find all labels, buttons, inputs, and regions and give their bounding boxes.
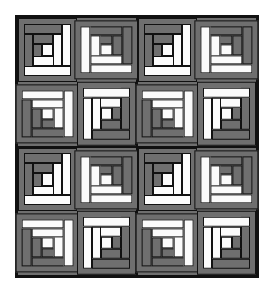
log-7-light-bottom [201, 26, 211, 74]
log-5-dark-top [142, 99, 152, 138]
log-1-dark-top [221, 249, 242, 259]
log-1-dark-top [31, 237, 41, 258]
log-cabin-block [136, 214, 200, 273]
log-5-dark-top [144, 153, 183, 163]
log-8-light-right [182, 153, 191, 195]
center-square [220, 174, 232, 185]
log-7-light-bottom [64, 90, 74, 138]
log-1-dark-top [33, 34, 54, 44]
quadrant-bottom-right [137, 147, 257, 277]
log-cabin-block [77, 211, 136, 275]
log-5-dark-top [243, 26, 253, 65]
log-7-light-bottom [81, 155, 91, 203]
log-7-light-bottom [64, 219, 74, 267]
log-8-light-right [210, 65, 252, 74]
log-1-dark-top [233, 165, 243, 186]
log-cabin-block [136, 84, 200, 143]
center-square [101, 237, 112, 249]
log-7-light-bottom [144, 195, 192, 205]
log-7-light-bottom [184, 90, 194, 138]
log-5-dark-top [212, 259, 251, 269]
quadrant-top-right [137, 17, 257, 147]
quilt-canvas: Log Cabin Quilt Pattern Two-color quilt … [0, 0, 274, 292]
log-4-light-right [90, 185, 122, 194]
log-1-dark-top [153, 34, 174, 44]
center-square [162, 44, 173, 56]
center-square [100, 44, 112, 55]
log-4-light-right [151, 228, 183, 237]
log-cabin-block [16, 214, 80, 273]
log-4-light-right [92, 98, 101, 130]
log-4-light-right [53, 163, 62, 195]
log-4-light-right [53, 34, 62, 66]
log-7-light-bottom [203, 88, 251, 98]
center-square [41, 237, 53, 248]
log-8-light-right [90, 194, 132, 203]
log-cabin-block [138, 148, 197, 212]
center-square [161, 108, 173, 119]
log-7-light-bottom [24, 195, 72, 205]
log-1-dark-top [151, 108, 161, 129]
log-4-light-right [212, 227, 221, 259]
log-4-light-right [173, 34, 182, 66]
log-cabin-block [138, 18, 197, 82]
log-5-dark-top [212, 130, 251, 140]
log-8-light-right [142, 219, 184, 228]
log-cabin-block [77, 82, 136, 146]
log-8-light-right [22, 219, 64, 228]
quilt-outer-border [15, 15, 259, 278]
log-1-dark-top [113, 165, 123, 186]
log-5-dark-top [243, 155, 253, 194]
log-8-light-right [62, 153, 71, 195]
log-cabin-block [18, 148, 77, 212]
log-7-light-bottom [201, 155, 211, 203]
log-7-light-bottom [83, 88, 131, 98]
log-1-dark-top [153, 163, 174, 173]
log-7-light-bottom [144, 66, 192, 76]
log-5-dark-top [24, 24, 63, 34]
log-cabin-block [195, 20, 259, 79]
center-square [100, 174, 112, 185]
log-4-light-right [31, 99, 63, 108]
center-square [42, 44, 53, 56]
log-4-light-right [151, 99, 183, 108]
quadrant-top-left [17, 17, 137, 147]
log-cabin-block [16, 84, 80, 143]
center-square [220, 44, 232, 55]
quadrant-bottom-left [17, 147, 137, 277]
log-5-dark-top [22, 228, 32, 267]
log-8-light-right [62, 24, 71, 66]
log-1-dark-top [101, 120, 122, 130]
log-4-light-right [31, 228, 63, 237]
log-8-light-right [22, 90, 64, 99]
log-8-light-right [83, 227, 92, 269]
log-8-light-right [203, 98, 212, 140]
log-8-light-right [90, 65, 132, 74]
log-7-light-bottom [24, 66, 72, 76]
log-7-light-bottom [184, 219, 194, 267]
log-7-light-bottom [203, 217, 251, 227]
log-1-dark-top [233, 35, 243, 56]
log-5-dark-top [123, 155, 133, 194]
log-1-dark-top [113, 35, 123, 56]
log-7-light-bottom [81, 26, 91, 74]
log-8-light-right [83, 98, 92, 140]
log-5-dark-top [92, 130, 131, 140]
log-1-dark-top [31, 108, 41, 129]
log-1-dark-top [101, 249, 122, 259]
center-square [41, 108, 53, 119]
log-5-dark-top [24, 153, 63, 163]
log-5-dark-top [142, 228, 152, 267]
log-4-light-right [212, 98, 221, 130]
log-5-dark-top [22, 99, 32, 138]
log-1-dark-top [151, 237, 161, 258]
log-cabin-block [18, 18, 77, 82]
center-square [42, 173, 53, 185]
center-square [161, 237, 173, 248]
log-5-dark-top [92, 259, 131, 269]
log-8-light-right [182, 24, 191, 66]
center-square [162, 173, 173, 185]
center-square [101, 107, 112, 119]
log-1-dark-top [33, 163, 54, 173]
log-8-light-right [210, 194, 252, 203]
